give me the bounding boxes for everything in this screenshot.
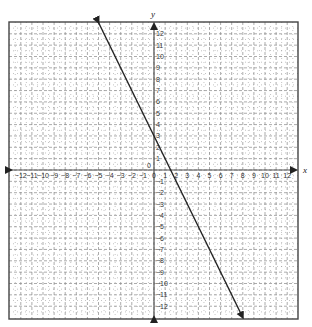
- y-tick-label: −7: [156, 246, 164, 253]
- y-tick-label: −6: [156, 235, 164, 242]
- x-axis-label: x: [302, 165, 307, 175]
- y-tick-label: 12: [156, 30, 164, 37]
- y-tick-label: −9: [156, 269, 164, 276]
- x-tick-label: 4: [196, 172, 200, 179]
- y-tick-label: −12: [156, 303, 168, 310]
- x-tick-label: −6: [83, 172, 91, 179]
- y-tick-label: −4: [156, 212, 164, 219]
- y-tick-label: 6: [156, 98, 160, 105]
- x-tick-label: −1: [139, 172, 147, 179]
- y-tick-label: −10: [156, 280, 168, 287]
- y-tick-label: 7: [156, 87, 160, 94]
- y-tick-label: −1: [156, 178, 164, 185]
- x-tick-label: 12: [283, 172, 291, 179]
- x-tick-label: 10: [261, 172, 269, 179]
- x-tick-label: −11: [26, 172, 37, 179]
- x-tick-label: 8: [241, 172, 245, 179]
- y-tick-label: 11: [156, 42, 163, 49]
- y-tick-label: 10: [156, 53, 164, 60]
- x-tick-label: −8: [61, 172, 69, 179]
- y-tick-label: −11: [156, 291, 167, 298]
- x-tick-label: −9: [50, 172, 58, 179]
- x-tick-label: −3: [117, 172, 125, 179]
- x-tick-label: 9: [252, 172, 256, 179]
- y-tick-label: 8: [156, 76, 160, 83]
- x-tick-label: −2: [128, 172, 136, 179]
- y-tick-label: −5: [156, 223, 164, 230]
- y-tick-label: 5: [156, 110, 160, 117]
- x-tick-label: 7: [230, 172, 234, 179]
- y-tick-label: −3: [156, 201, 164, 208]
- y-tick-label: 0: [147, 162, 151, 169]
- x-tick-label: 11: [272, 172, 279, 179]
- x-tick-label: 6: [219, 172, 223, 179]
- y-tick-label: −2: [156, 189, 164, 196]
- x-tick-label: 5: [208, 172, 212, 179]
- y-tick-label: 3: [156, 132, 160, 139]
- x-tick-label: −10: [37, 172, 49, 179]
- y-tick-label: 1: [156, 155, 160, 162]
- y-tick-label: 4: [156, 121, 160, 128]
- x-tick-label: −12: [15, 172, 27, 179]
- x-tick-label: −5: [95, 172, 103, 179]
- y-tick-label: 9: [156, 64, 160, 71]
- y-axis-label: y: [150, 9, 155, 19]
- x-tick-label: −7: [72, 172, 80, 179]
- x-tick-label: −4: [106, 172, 114, 179]
- x-tick-label: 3: [185, 172, 189, 179]
- y-tick-label: −8: [156, 257, 164, 264]
- coordinate-plane: −12−11−10−9−8−7−6−5−4−3−2−10123456789101…: [0, 0, 312, 327]
